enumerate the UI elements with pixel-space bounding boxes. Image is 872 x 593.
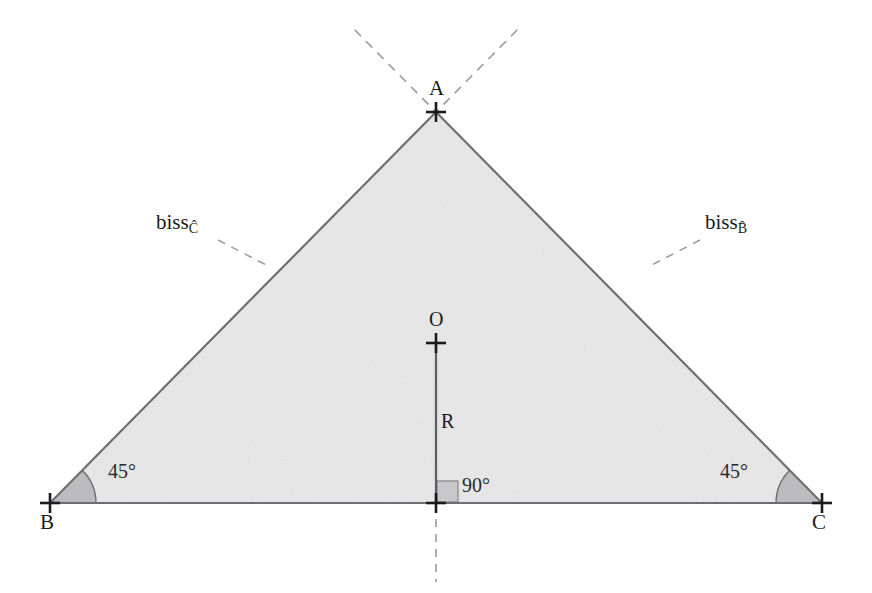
bisector-label-B-text: biss (705, 210, 738, 234)
incenter-label-O: O (429, 309, 443, 329)
bisector-label-B: bissB̂ (705, 212, 747, 236)
bisector-label-C-text: biss (156, 210, 189, 234)
inradius-label-R: R (441, 411, 454, 431)
bisector-label-C-subscript: Ĉ (189, 221, 198, 236)
angle-label-B-45: 45° (108, 461, 136, 481)
right-angle-marker (437, 481, 458, 502)
vertex-label-A: A (429, 78, 444, 99)
angle-label-right-90: 90° (462, 475, 490, 495)
bisector-label-B-subscript: B̂ (738, 221, 747, 236)
bisector-label-C: bissĈ (156, 212, 198, 236)
vertex-label-C: C (812, 512, 826, 533)
angle-label-C-45: 45° (720, 461, 748, 481)
right-angle-square (437, 481, 458, 502)
leader-line-biss-C (218, 240, 268, 266)
leader-line-biss-B (650, 240, 700, 266)
geometry-figure: A B C O R 45° 45° 90° bissĈ bissB̂ (0, 0, 872, 593)
vertex-label-B: B (40, 512, 54, 533)
